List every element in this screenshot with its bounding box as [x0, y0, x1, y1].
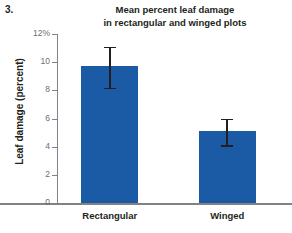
plot-area: 024681012% — [57, 34, 292, 203]
y-axis-tick-labels: 024681012% — [17, 34, 50, 203]
x-label-rectangular: Rectangular — [50, 210, 170, 221]
y-tick-label-8: 8 — [45, 84, 50, 94]
x-axis-tick-labels: RectangularWinged — [57, 210, 292, 228]
chart-title: Mean percent leaf damage in rectangular … — [58, 3, 292, 29]
y-tick-0 — [52, 203, 57, 204]
error-bar-cap-upper-rectangular — [104, 47, 116, 49]
chart-title-line-1: Mean percent leaf damage — [58, 3, 292, 16]
figure-container: 3. Mean percent leaf damage in rectangul… — [0, 0, 292, 233]
y-tick-label-12: 12% — [33, 28, 50, 38]
y-tick-label-0: 0 — [45, 197, 50, 207]
error-bar-cap-lower-winged — [221, 145, 233, 147]
y-tick-4 — [52, 147, 57, 148]
error-bar-line-winged — [226, 119, 228, 146]
error-bar-line-rectangular — [109, 47, 111, 88]
x-axis-line — [0, 203, 292, 205]
y-tick-6 — [52, 119, 57, 120]
y-tick-8 — [52, 90, 57, 91]
y-tick-12 — [52, 34, 57, 35]
error-bar-cap-upper-winged — [221, 119, 233, 121]
y-tick-label-6: 6 — [45, 113, 50, 123]
error-bar-cap-lower-rectangular — [104, 88, 116, 90]
y-tick-label-2: 2 — [45, 169, 50, 179]
y-axis-line — [57, 34, 58, 203]
y-tick-2 — [52, 175, 57, 176]
y-tick-10 — [52, 62, 57, 63]
figure-number: 3. — [5, 4, 13, 15]
x-label-winged: Winged — [167, 210, 287, 221]
y-tick-label-10: 10 — [41, 56, 50, 66]
y-tick-label-4: 4 — [45, 141, 50, 151]
chart-title-line-2: in rectangular and winged plots — [58, 16, 292, 29]
